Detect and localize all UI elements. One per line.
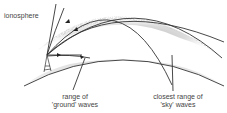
ground-range-line1: range of — [45, 93, 105, 101]
wave-rays — [47, 4, 224, 91]
transmitter-tower-icon — [44, 55, 51, 72]
ionosphere-label: ionosphere — [4, 12, 39, 20]
ground-range-line2: 'ground' waves — [45, 101, 105, 109]
sky-range-line1: closest range of — [145, 93, 211, 101]
arrow-icon — [65, 19, 70, 23]
sky-range-line2: 'sky' waves — [145, 101, 211, 109]
sky-range-pointer — [172, 55, 173, 91]
arrow-icon — [80, 55, 84, 59]
ground-wave — [47, 55, 90, 58]
sky-ray-1 — [47, 20, 172, 85]
arrow-icon — [57, 53, 61, 57]
earth-surface — [24, 60, 224, 91]
ground-wave-range-label: range of 'ground' waves — [45, 93, 105, 109]
sky-wave-range-label: closest range of 'sky' waves — [145, 93, 211, 109]
